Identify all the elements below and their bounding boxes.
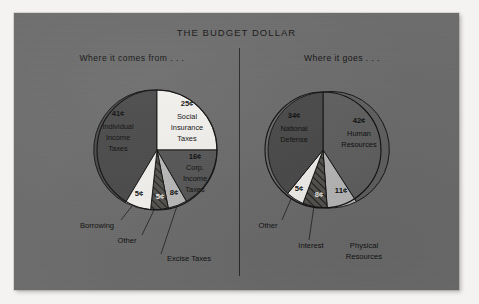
value-11c-physical: 11¢ [335,186,348,195]
leader-interest [309,206,314,240]
pies-svg: 41¢ Individual Income Taxes 25¢ Social I… [14,13,459,290]
left-pie: 41¢ Individual Income Taxes 25¢ Social I… [80,90,217,263]
svg-text:Taxes: Taxes [177,134,197,143]
right-pie: 34¢ National Defense 42¢ Human Resources… [259,91,390,261]
svg-text:Individual: Individual [102,122,134,131]
leader-other-outlays [282,199,291,220]
value-8c-interest: 8¢ [315,190,324,199]
svg-text:Insurance: Insurance [171,123,203,132]
leader-borrowing [121,206,132,220]
svg-text:Defense: Defense [280,135,308,144]
svg-text:Corp.: Corp. [186,163,204,172]
value-5c-borrowing: 5¢ [135,189,144,198]
callout-borrowing: Borrowing [80,221,114,230]
callout-excise-taxes: Excise Taxes [167,254,211,263]
budget-dollar-figure: THE BUDGET DOLLAR Where it comes from . … [0,0,479,304]
value-34c: 34¢ [288,111,301,120]
svg-text:Resources: Resources [341,140,377,149]
value-5c-other: 5¢ [156,192,165,201]
value-5c-other-outlays: 5¢ [295,184,304,193]
callout-other-outlays: Other [259,221,278,230]
svg-text:Physical: Physical [350,241,379,250]
leader-excise [161,206,177,254]
leader-other [142,210,154,235]
value-42c: 42¢ [353,116,366,125]
callout-other: Other [118,236,137,245]
svg-text:Taxes: Taxes [108,144,128,153]
value-8c-excise: 8¢ [170,188,179,197]
value-41c: 41¢ [112,109,125,118]
value-25c: 25¢ [181,99,194,108]
svg-text:Human: Human [347,129,371,138]
callout-physical-resources: Physical Resources [346,241,382,261]
svg-text:Social: Social [177,112,197,121]
callout-interest: Interest [298,241,324,250]
svg-text:Resources: Resources [346,252,382,261]
svg-text:National: National [280,124,307,133]
svg-text:Income: Income [183,174,207,183]
svg-text:Income: Income [106,133,130,142]
value-16c: 16¢ [189,152,202,161]
svg-text:Taxes: Taxes [185,185,205,194]
chart-panel: THE BUDGET DOLLAR Where it comes from . … [14,13,459,290]
